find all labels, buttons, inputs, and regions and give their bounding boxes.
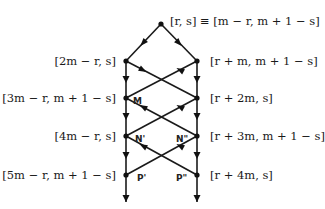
arrow-down-icon xyxy=(123,152,130,159)
node-left-3 xyxy=(123,133,128,138)
arrow-icon xyxy=(175,102,185,111)
arrow-down-icon xyxy=(123,195,130,202)
tag-N-prime: N' xyxy=(135,134,145,144)
arrow-down-icon xyxy=(123,113,130,120)
tag-P-prime: P' xyxy=(137,173,146,183)
arrow-down-icon xyxy=(194,152,201,159)
left-label-3: [4m − r, s] xyxy=(54,129,116,143)
tag-P-double-prime: P" xyxy=(176,173,187,183)
lattice-diagram: M N' N" P' P" [r, s] ≡ [m − r, m + 1 − s… xyxy=(0,0,325,209)
right-label-3: [r + 3m, m + 1 − s] xyxy=(210,129,325,143)
arrow-down-icon xyxy=(194,76,201,83)
arrow-down-icon xyxy=(194,113,201,120)
node-right-3 xyxy=(194,133,199,138)
node-right-2 xyxy=(194,95,199,100)
node-right-1 xyxy=(194,58,199,63)
left-label-1: [2m − r, s] xyxy=(54,54,116,68)
tag-M: M xyxy=(133,96,142,106)
node-left-4 xyxy=(123,172,128,177)
arrow-down-icon xyxy=(123,76,130,83)
left-label-2: [3m − r, m + 1 − s] xyxy=(2,91,116,105)
left-label-4: [5m − r, m + 1 − s] xyxy=(2,168,116,182)
tag-N-double-prime: N" xyxy=(176,134,188,144)
right-label-2: [r + 2m, s] xyxy=(210,91,273,105)
right-label-4: [r + 4m, s] xyxy=(210,168,273,182)
right-label-1: [r + m, m + 1 − s] xyxy=(210,54,318,68)
node-left-1 xyxy=(123,58,128,63)
top-node-label: [r, s] ≡ [m − r, m + 1 − s] xyxy=(170,14,320,28)
arrow-down-icon xyxy=(194,195,201,202)
arrow-icon xyxy=(175,65,185,74)
node-top xyxy=(158,21,163,26)
node-right-4 xyxy=(194,172,199,177)
arrow-icon xyxy=(138,65,148,74)
node-left-2 xyxy=(123,95,128,100)
